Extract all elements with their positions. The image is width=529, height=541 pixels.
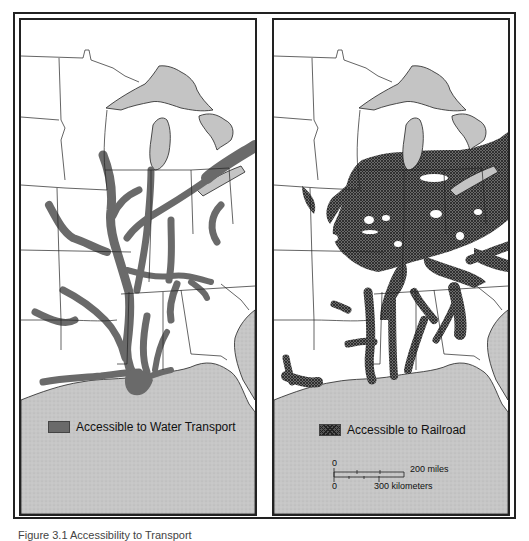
lake-superior (106, 66, 213, 111)
water-transport-map (21, 20, 255, 514)
legend-label-railroad: Accessible to Railroad (347, 423, 466, 437)
legend-swatch-railroad (319, 424, 341, 436)
map-panel-railroad: Accessible to Railroad 0 200 miles 0 300… (272, 18, 510, 516)
legend-water-transport: Accessible to Water Transport (48, 420, 236, 434)
scale-miles-label: 200 miles (410, 464, 449, 474)
lake-huron (452, 114, 486, 150)
railroad-map (274, 20, 508, 514)
scale-miles-zero: 0 (332, 458, 337, 468)
figure-caption: Figure 3.1 Accessibility to Transport (18, 529, 192, 541)
legend-swatch-water (48, 421, 70, 433)
scale-km-label: 300 kilometers (374, 481, 433, 491)
lake-michigan (150, 118, 171, 170)
lake-superior (359, 66, 466, 111)
scale-km-zero: 0 (332, 481, 337, 491)
lake-huron (199, 114, 233, 150)
map-panel-water-transport: Accessible to Water Transport (19, 18, 257, 516)
legend-label-water: Accessible to Water Transport (76, 420, 236, 434)
legend-railroad: Accessible to Railroad (319, 423, 466, 437)
